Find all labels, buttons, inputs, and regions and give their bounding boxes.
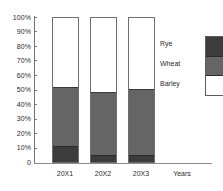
bar-20X2-segment-wheat — [91, 92, 116, 155]
bar-20X2-segment-barley — [91, 18, 116, 92]
legend: Rye Wheat Barley — [160, 36, 220, 98]
legend-swatch-wheat — [206, 56, 223, 76]
y-tick-label-100: 100% — [1, 14, 31, 21]
bar-20X3-segment-wheat — [129, 89, 154, 155]
stacked-bar-chart: 100% 90% 80% 70% 60% 50% 40% 30% 20% 10%… — [0, 0, 223, 191]
y-tick-label-50: 50% — [1, 86, 31, 93]
bar-20X3-segment-rye — [129, 155, 154, 162]
bar-20X2[interactable] — [90, 17, 117, 163]
y-tick-label-60: 60% — [1, 72, 31, 79]
x-axis-line — [34, 163, 212, 164]
x-axis-caption: Years — [160, 170, 204, 178]
legend-label-wheat: Wheat — [160, 60, 200, 68]
y-tick-label-40: 40% — [1, 101, 31, 108]
legend-swatch-rye — [206, 37, 223, 56]
y-tick-label-10: 10% — [1, 144, 31, 151]
bar-20X1-segment-rye — [53, 146, 78, 162]
bar-20X1-segment-wheat — [53, 87, 78, 146]
legend-label-barley: Barley — [160, 80, 200, 88]
y-tick-label-90: 90% — [1, 28, 31, 35]
bar-20X3-segment-barley — [129, 18, 154, 89]
y-tick-label-20: 20% — [1, 130, 31, 137]
bar-20X1-segment-barley — [53, 18, 78, 87]
legend-swatch-barley — [206, 75, 223, 95]
bar-20X1[interactable] — [52, 17, 79, 163]
y-tick-label-80: 80% — [1, 43, 31, 50]
y-tick-label-70: 70% — [1, 57, 31, 64]
y-tick-label-30: 30% — [1, 115, 31, 122]
legend-label-rye: Rye — [160, 40, 200, 48]
y-tick-label-0: 0 — [1, 159, 31, 166]
y-axis-labels: 100% 90% 80% 70% 60% 50% 40% 30% 20% 10%… — [0, 0, 31, 191]
bar-20X3[interactable] — [128, 17, 155, 163]
legend-swatch-box — [205, 36, 223, 96]
bar-20X2-segment-rye — [91, 155, 116, 162]
x-tick-label-20X3: 20X3 — [119, 170, 163, 178]
